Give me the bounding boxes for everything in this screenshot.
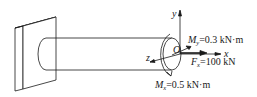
my-value: =0.3 kN·m bbox=[199, 34, 243, 45]
wall-plate-face bbox=[23, 17, 56, 89]
y-axis-arrowhead bbox=[179, 10, 182, 16]
wall-plate-front bbox=[15, 26, 23, 91]
z-axis-label: z bbox=[146, 53, 150, 63]
z-axis-arrowhead bbox=[150, 60, 155, 63]
origin-label: O bbox=[173, 45, 180, 55]
my-load-label: My=0.3 kN·m bbox=[188, 35, 243, 47]
fx-arrowhead bbox=[200, 51, 207, 56]
y-axis-label: y bbox=[172, 9, 176, 19]
mx-value: =0.5 kN·m bbox=[166, 79, 210, 90]
beam-diagram bbox=[0, 0, 257, 97]
fx-load-label: Fx=100 kN bbox=[191, 57, 235, 69]
mx-load-label: Mx=0.5 kN·m bbox=[155, 80, 210, 92]
fx-value: =100 kN bbox=[200, 56, 235, 67]
shaft-body bbox=[46, 38, 172, 70]
